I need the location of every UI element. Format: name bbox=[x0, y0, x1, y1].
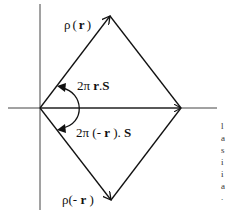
label-rho-neg-r: ρ(- r ) bbox=[62, 192, 94, 207]
rhombus-edge-bottom-right bbox=[111, 108, 181, 200]
vector-diagram: ρ(r) 2π r.S 2π (- r ). S ρ(- r ) l a s i… bbox=[0, 0, 226, 210]
svg-text:s: s bbox=[221, 145, 225, 155]
svg-text:.: . bbox=[221, 192, 223, 202]
svg-text:a: a bbox=[221, 133, 225, 143]
label-phase-r: 2π r.S bbox=[77, 78, 110, 93]
svg-text:i: i bbox=[221, 157, 224, 167]
vector-rho-neg-r bbox=[40, 108, 111, 200]
label-phase-neg-r: 2π (- r ). S bbox=[76, 125, 131, 140]
label-rho-r: ρ(r) bbox=[64, 17, 91, 32]
svg-text:l: l bbox=[221, 121, 224, 131]
clipped-text-fragments: l a s i i a . bbox=[221, 121, 225, 202]
svg-text:a: a bbox=[221, 181, 225, 191]
rhombus-edge-top-right bbox=[110, 16, 181, 108]
svg-text:i: i bbox=[221, 169, 224, 179]
